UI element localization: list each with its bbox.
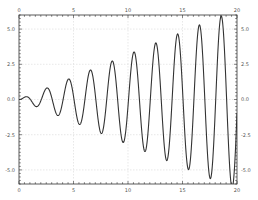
- x-tick-label-bottom: 0: [17, 187, 20, 193]
- y-tick-label-left: 5.0: [7, 26, 15, 32]
- y-tick-label-right: 2.5: [241, 61, 249, 67]
- y-tick-label-right: -2.5: [241, 132, 251, 138]
- line-chart: 00551010151520205.05.02.52.50.00.0-2.5-2…: [0, 0, 258, 200]
- y-tick-label-left: -2.5: [5, 132, 15, 138]
- y-tick-label-right: 5.0: [241, 26, 249, 32]
- x-tick-label-top: 15: [179, 7, 185, 13]
- y-tick-label-right: -5.0: [241, 167, 251, 173]
- y-tick-label-left: -5.0: [5, 167, 15, 173]
- y-tick-label-left: 0.0: [7, 96, 15, 102]
- x-tick-label-bottom: 20: [234, 187, 240, 193]
- x-tick-label-top: 0: [17, 7, 20, 13]
- x-tick-label-bottom: 5: [72, 187, 75, 193]
- y-tick-label-right: 0.0: [241, 96, 249, 102]
- x-tick-label-bottom: 15: [179, 187, 185, 193]
- x-tick-label-bottom: 10: [125, 187, 131, 193]
- x-tick-label-top: 10: [125, 7, 131, 13]
- x-tick-label-top: 5: [72, 7, 75, 13]
- x-tick-label-top: 20: [234, 7, 240, 13]
- y-tick-label-left: 2.5: [7, 61, 15, 67]
